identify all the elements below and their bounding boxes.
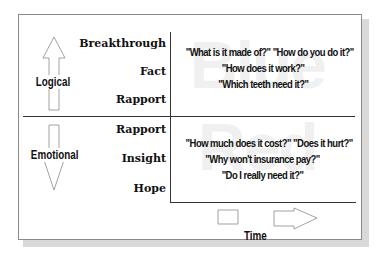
logical-label: Logical [35, 75, 71, 89]
right-arrow-icon [218, 208, 317, 229]
emotional-label: Emotional [30, 148, 79, 162]
logical-question-1: "What is it made of?" "How do you do it?… [172, 46, 354, 58]
level-breakthrough: Breakthrough [79, 37, 166, 50]
emotional-question-1: "How much does it cost?" "Does it hurt?" [172, 137, 354, 149]
level-rapport-emotional: Rapport [116, 123, 166, 136]
level-hope: Hope [134, 182, 166, 195]
emotional-question-3: "Do I really need it?" [172, 169, 354, 181]
level-rapport-logical: Rapport [116, 93, 166, 106]
arrows-layer [0, 0, 388, 258]
logical-question-3: "Which teeth need it?" [172, 78, 354, 90]
level-insight: Insight [122, 152, 166, 165]
logical-question-2: "How does it work?" [172, 62, 354, 74]
time-label: Time [244, 229, 267, 243]
emotional-question-2: "Why won't insurance pay?" [172, 153, 354, 165]
level-fact: Fact [140, 65, 166, 78]
up-arrow-icon [43, 37, 65, 110]
